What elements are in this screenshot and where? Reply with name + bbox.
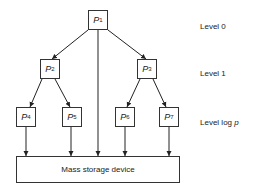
mass-storage-device: Mass storage device — [16, 156, 180, 183]
node-p3: P3 — [137, 59, 157, 79]
node-subscript: 2 — [51, 66, 54, 72]
node-p6: P6 — [115, 107, 135, 127]
edge-p3-p7 — [153, 79, 166, 107]
edge-p2-p4 — [30, 79, 42, 107]
node-p2: P2 — [40, 59, 60, 79]
node-p5: P5 — [62, 107, 82, 127]
node-subscript: 5 — [73, 114, 76, 120]
node-subscript: 3 — [148, 66, 151, 72]
edge-p2-p5 — [55, 79, 70, 107]
node-p4: P4 — [16, 107, 36, 127]
node-p1: P1 — [88, 10, 108, 30]
storage-label: Mass storage device — [61, 165, 134, 174]
edge-p1-p3 — [108, 30, 146, 59]
level-logp-variable: p — [234, 118, 238, 127]
edge-p1-p2 — [52, 30, 88, 59]
level-1-label: Level 1 — [200, 69, 226, 78]
node-p7: P7 — [159, 107, 179, 127]
node-subscript: 6 — [126, 114, 129, 120]
level-0-label: Level 0 — [200, 22, 226, 31]
node-subscript: 1 — [99, 17, 102, 23]
level-logp-label: Level log p — [200, 118, 239, 127]
level-logp-prefix: Level log — [200, 118, 234, 127]
node-subscript: 7 — [170, 114, 173, 120]
edge-p3-p6 — [127, 79, 140, 107]
node-subscript: 4 — [27, 114, 30, 120]
